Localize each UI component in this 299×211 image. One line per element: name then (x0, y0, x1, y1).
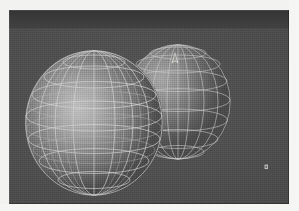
sphere-primary[interactable] (25, 50, 163, 196)
stray-marker (264, 164, 269, 170)
scene-canvas[interactable] (9, 28, 289, 204)
sphere-primary-dither (25, 50, 163, 196)
vertex-handle-icon (264, 164, 269, 170)
page-gutter-bottom (0, 204, 299, 211)
screenshot-root (0, 0, 299, 211)
viewport-window (9, 10, 289, 204)
page-gutter-right (289, 0, 299, 211)
viewport-toolbar[interactable] (9, 10, 289, 28)
